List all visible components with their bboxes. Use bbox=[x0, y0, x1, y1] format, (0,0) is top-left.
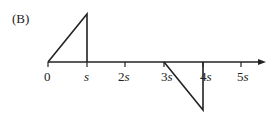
tick-label-5s: 5s bbox=[237, 69, 249, 84]
waveform-diagram: (B) 0 s 2s 3s 4s 5s bbox=[0, 0, 268, 115]
tick-label-4s: 4s bbox=[200, 69, 212, 84]
positive-triangle bbox=[48, 14, 87, 62]
tick-label-2s: 2s bbox=[118, 69, 130, 84]
option-label: (B) bbox=[12, 11, 29, 26]
tick-label-s: s bbox=[84, 69, 89, 84]
axis-arrow-icon bbox=[258, 59, 266, 65]
negative-triangle bbox=[164, 62, 203, 110]
tick-label-0: 0 bbox=[44, 69, 51, 84]
axis-ticks bbox=[48, 62, 241, 67]
